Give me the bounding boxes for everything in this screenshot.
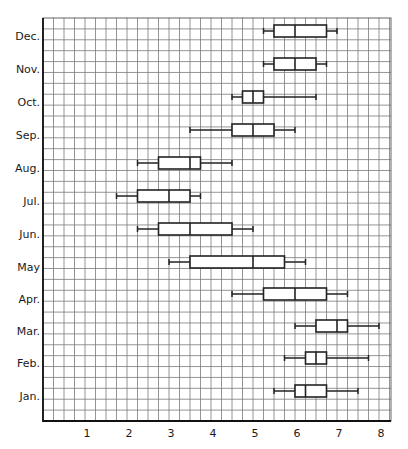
iqr-box bbox=[159, 157, 201, 169]
x-tick-label: 1 bbox=[84, 427, 91, 440]
y-category-label: Sep. bbox=[16, 129, 40, 142]
box-feb bbox=[285, 352, 369, 364]
iqr-box bbox=[316, 320, 348, 332]
x-axis-labels: 12345678 bbox=[84, 427, 385, 440]
box-nov bbox=[264, 58, 327, 70]
iqr-box bbox=[159, 223, 233, 235]
y-category-label: Jun. bbox=[18, 228, 40, 241]
box-apr bbox=[232, 288, 348, 300]
iqr-box bbox=[274, 25, 327, 37]
box-mar bbox=[295, 320, 379, 332]
grid bbox=[43, 18, 391, 421]
y-category-label: Mar. bbox=[17, 325, 40, 338]
x-tick-label: 2 bbox=[126, 427, 133, 440]
box-series bbox=[117, 25, 380, 397]
box-jul bbox=[117, 190, 201, 202]
box-aug bbox=[138, 157, 233, 169]
x-tick-label: 3 bbox=[168, 427, 175, 440]
y-category-label: Nov. bbox=[16, 63, 40, 76]
box-jan bbox=[274, 385, 358, 397]
x-tick-label: 7 bbox=[336, 427, 343, 440]
box-sep bbox=[190, 124, 295, 136]
box-plot-chart: Dec.Nov.Oct.Sep.Aug.Jul.Jun.MayApr.Mar.F… bbox=[0, 0, 408, 449]
iqr-box bbox=[190, 256, 285, 268]
iqr-box bbox=[138, 190, 191, 202]
y-category-label: Jan. bbox=[19, 390, 40, 403]
iqr-box bbox=[295, 385, 327, 397]
box-dec bbox=[264, 25, 338, 37]
y-category-label: May bbox=[17, 261, 40, 274]
box-may bbox=[169, 256, 306, 268]
y-axis-labels: Dec.Nov.Oct.Sep.Aug.Jul.Jun.MayApr.Mar.F… bbox=[15, 30, 40, 403]
y-category-label: Apr. bbox=[18, 293, 40, 306]
y-category-label: Oct. bbox=[17, 96, 40, 109]
x-tick-label: 6 bbox=[294, 427, 301, 440]
y-category-label: Dec. bbox=[15, 30, 40, 43]
y-category-label: Feb. bbox=[17, 357, 40, 370]
y-category-label: Aug. bbox=[15, 162, 40, 175]
x-tick-label: 5 bbox=[252, 427, 259, 440]
x-tick-label: 4 bbox=[210, 427, 217, 440]
y-category-label: Jul. bbox=[22, 195, 40, 208]
x-tick-label: 8 bbox=[378, 427, 385, 440]
